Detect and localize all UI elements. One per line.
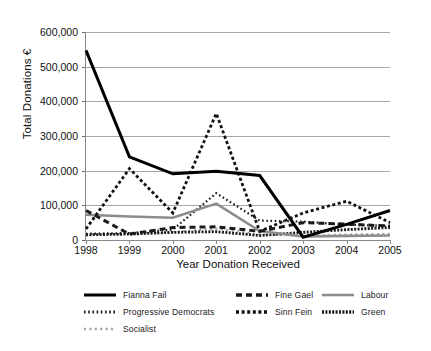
x-axis-title: Year Donation Received <box>86 258 390 270</box>
legend-item-socialist[interactable]: Socialist <box>84 320 156 337</box>
legend-label: Sinn Fein <box>275 307 312 317</box>
legend-label: Fine Gael <box>275 290 313 300</box>
legend-label: Socialist <box>123 324 156 334</box>
chart-container: Total Donations € 0100,000200,000300,000… <box>0 0 431 351</box>
legend-swatch-fianna-fail <box>84 290 116 300</box>
series-lines <box>86 32 390 240</box>
y-axis-tick-label: 400,000 <box>20 95 78 107</box>
legend-label: Fianna Fail <box>123 290 167 300</box>
y-axis-tick-label: 200,000 <box>20 165 78 177</box>
x-axis-tick-label: 2001 <box>196 244 236 256</box>
legend-swatch-green <box>322 307 354 317</box>
x-axis-tick-label: 2003 <box>283 244 323 256</box>
plot-area: 0100,000200,000300,000400,000500,000600,… <box>86 32 390 240</box>
y-axis-tick-label: 300,000 <box>20 130 78 142</box>
legend-item-fianna-fail[interactable]: Fianna Fail <box>84 286 167 303</box>
legend-item-labour[interactable]: Labour <box>322 286 388 303</box>
series-line-fianna-fail <box>86 50 390 237</box>
series-line-progressive-democrats <box>86 193 390 234</box>
x-axis-tick-label: 2000 <box>153 244 193 256</box>
legend-row: Socialist <box>84 320 414 337</box>
legend-row: Fianna Fail Fine Gael Labour <box>84 286 414 303</box>
y-axis-tick-label: 600,000 <box>20 26 78 38</box>
legend-item-sinn-fein[interactable]: Sinn Fein <box>236 303 312 320</box>
x-axis-tick-label: 2002 <box>240 244 280 256</box>
legend-row: Progressive Democrats Sinn Fein Green <box>84 303 414 320</box>
legend-swatch-socialist <box>84 324 116 334</box>
x-axis-tick-label: 2004 <box>327 244 367 256</box>
x-axis-tick-label: 2005 <box>370 244 410 256</box>
x-axis-tick-label: 1999 <box>109 244 149 256</box>
legend-swatch-progressive-democrats <box>84 307 116 317</box>
legend-item-progressive-democrats[interactable]: Progressive Democrats <box>84 303 214 320</box>
legend-item-green[interactable]: Green <box>322 303 385 320</box>
y-axis-tick-label: 100,000 <box>20 199 78 211</box>
legend-label: Labour <box>361 290 388 300</box>
y-axis-tick-label: 500,000 <box>20 61 78 73</box>
chart-legend: Fianna Fail Fine Gael Labour Progressive… <box>84 286 414 337</box>
x-axis-tick-mark <box>390 240 391 244</box>
legend-swatch-labour <box>322 290 354 300</box>
legend-swatch-sinn-fein <box>236 307 268 317</box>
legend-label: Progressive Democrats <box>123 307 214 317</box>
legend-swatch-fine-gael <box>236 290 268 300</box>
legend-label: Green <box>361 307 385 317</box>
legend-item-fine-gael[interactable]: Fine Gael <box>236 286 313 303</box>
x-axis-tick-label: 1998 <box>66 244 106 256</box>
x-axis-line <box>85 240 390 241</box>
